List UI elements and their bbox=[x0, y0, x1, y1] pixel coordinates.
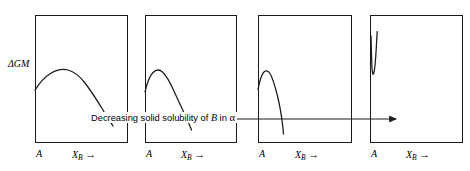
panel-3-box bbox=[258, 15, 352, 143]
panel-1-box bbox=[35, 15, 128, 143]
panel-2-x-axis-label: XB → bbox=[181, 148, 205, 162]
panel-3-x-origin-label: A bbox=[259, 148, 265, 159]
annotation-label: Decreasing solid solubility of B in α bbox=[89, 112, 237, 123]
figure-container: ΔGM A XB → A XB → A XB → A XB → Decreasi… bbox=[0, 0, 470, 171]
panel-4-box bbox=[370, 15, 463, 143]
panel-3-x-axis-label: XB → bbox=[295, 148, 319, 162]
panel-1-y-axis-label: ΔGM bbox=[8, 58, 29, 69]
panel-4-x-origin-label: A bbox=[371, 148, 377, 159]
panel-2-x-origin-label: A bbox=[146, 148, 152, 159]
panel-4-x-axis-label: XB → bbox=[406, 148, 430, 162]
panel-1-x-axis-label: XB → bbox=[72, 148, 96, 162]
panel-2-box bbox=[145, 15, 237, 143]
panel-1-x-origin-label: A bbox=[36, 148, 42, 159]
